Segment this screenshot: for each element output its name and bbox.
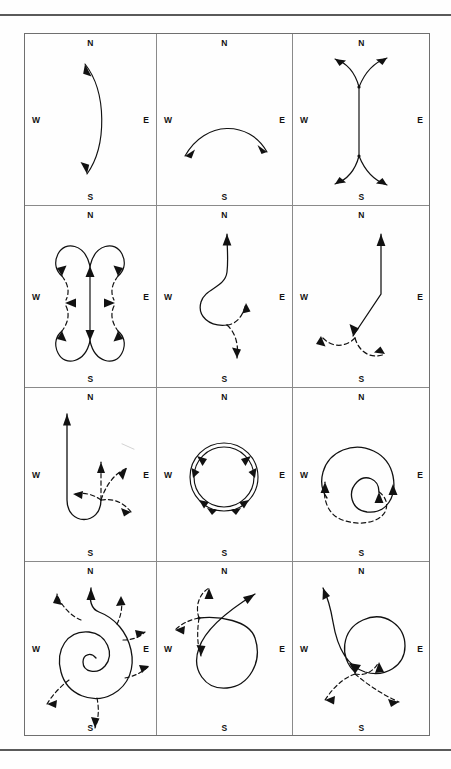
panel-6: N S W E <box>293 206 430 387</box>
trajectory-figure-northward-bowed-arc <box>157 34 292 205</box>
panel-12: N S W E <box>293 562 430 736</box>
trajectory-figure-double-concentric-circle <box>157 388 292 561</box>
trajectory-figure-eastward-bowed-arc <box>25 34 156 205</box>
panel-8: N S W E <box>157 388 292 561</box>
trajectory-figure-bent-line-north <box>293 206 430 387</box>
trajectory-figure-solid-dashed-spiral <box>293 388 430 561</box>
panel-7: N S W E <box>25 388 156 561</box>
bottom-horizontal-rule <box>0 749 451 751</box>
page-canvas: N S W E N S W E <box>0 0 451 769</box>
panel-1: N S W E <box>25 34 156 205</box>
trajectory-figure-circle-with-tail <box>293 562 430 736</box>
panel-3: N S W E <box>293 34 430 205</box>
panel-9: N S W E <box>293 388 430 561</box>
panel-10: N S W E <box>25 562 156 736</box>
panel-5: N S W E <box>157 206 292 387</box>
panel-4: N S W E <box>25 206 156 387</box>
trajectory-figure-tight-spiral <box>25 562 156 736</box>
trajectory-figure-hairpin-u <box>25 388 156 561</box>
trajectory-figure-s-curve-north <box>157 206 292 387</box>
trajectory-figure-vertical-line-with-forks <box>293 34 430 205</box>
panel-2: N S W E <box>157 34 292 205</box>
panel-11: N S W E <box>157 562 292 736</box>
trajectory-figure-symmetric-double-lobe <box>25 206 156 387</box>
top-horizontal-rule <box>0 14 451 16</box>
trajectory-figure-lasso-loop <box>157 562 292 736</box>
diagram-grid: N S W E N S W E <box>24 33 430 736</box>
